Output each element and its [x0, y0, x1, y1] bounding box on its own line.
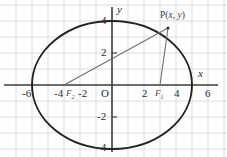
y-tick-label-pos4: 4	[101, 15, 107, 26]
x-tick-label-neg4: -4	[54, 88, 63, 99]
x-tick-label-pos2: 2	[142, 88, 148, 99]
origin-label: O	[101, 88, 109, 99]
focus-f2-subscript: 2	[72, 94, 75, 100]
point-p-label: P(x, y)	[160, 11, 185, 21]
y-axis-label: y	[117, 4, 122, 15]
y-tick-label-neg2: -2	[97, 111, 106, 122]
grid-lines	[0, 0, 227, 157]
axis-lines	[4, 7, 218, 152]
focus-label-f1: F1	[155, 89, 164, 100]
y-tick-label-pos2: 2	[101, 47, 107, 58]
x-tick-label-pos4: 4	[174, 88, 180, 99]
point-markers	[167, 27, 170, 30]
point-p-close: )	[182, 10, 185, 20]
focus-label-f2: F2	[66, 89, 75, 100]
ellipse-figure: -6 -4 -2 2 4 6 4 2 -2 -4 O x y F2 F1 P(x…	[0, 0, 227, 157]
focus-f1-subscript: 1	[161, 94, 164, 100]
x-tick-label-neg2: -2	[78, 88, 87, 99]
x-tick-label-pos6: 6	[205, 88, 211, 99]
x-axis-label: x	[198, 68, 203, 79]
x-tick-label-neg6: -6	[22, 88, 31, 99]
point-p-marker	[167, 27, 170, 30]
ellipse-diagram-canvas	[0, 0, 227, 157]
y-tick-label-neg4: -4	[97, 142, 106, 153]
